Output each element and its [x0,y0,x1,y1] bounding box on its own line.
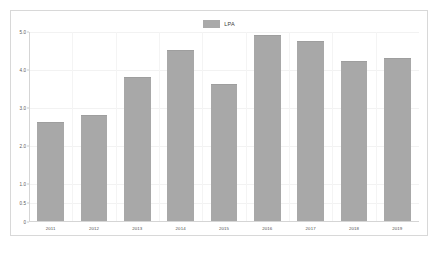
bar[interactable] [384,58,411,221]
chart-card: LPA 5.04.03.02.01.00.50 2011201220132014… [10,10,428,236]
bar[interactable] [341,61,368,221]
x-axis-tick-label: 2013 [132,226,142,231]
bar[interactable] [81,115,108,221]
x-axis-tick-label: 2016 [262,226,272,231]
y-axis-tick-label: 0.5 [20,201,26,206]
bar[interactable] [167,50,194,221]
x-axis-tick-label: 2018 [349,226,359,231]
bar[interactable] [124,77,151,221]
legend-label-lpa: LPA [224,20,235,28]
y-axis-tick-label: 4.0 [20,68,26,73]
bar[interactable] [37,122,64,221]
x-axis-tick-label: 2011 [46,226,56,231]
x-axis-tick-label: 2015 [219,226,229,231]
plot-area: 5.04.03.02.01.00.50 20112012201320142015… [29,32,419,222]
y-axis-tick-label: 2.0 [20,144,26,149]
y-axis-tick-label: 5.0 [20,30,26,35]
y-axis-tick-label: 0 [23,220,26,225]
bars-layer [29,32,419,222]
x-axis-tick-label: 2017 [306,226,316,231]
legend-swatch-lpa [203,20,220,28]
y-axis-tick-label: 1.0 [20,182,26,187]
y-axis-tick-label: 3.0 [20,106,26,111]
bar[interactable] [297,41,324,222]
bar[interactable] [211,84,238,221]
x-axis-tick-label: 2019 [392,226,402,231]
chart-legend: LPA [11,20,427,28]
bar[interactable] [254,35,281,221]
bar-chart-figure: LPA 5.04.03.02.01.00.50 2011201220132014… [0,0,438,253]
x-axis-tick-label: 2014 [176,226,186,231]
x-axis-tick-label: 2012 [89,226,99,231]
legend-entry-lpa[interactable]: LPA [203,20,235,28]
